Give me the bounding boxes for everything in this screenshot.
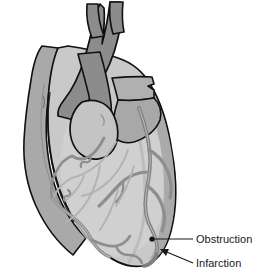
obstruction-label: Obstruction [196, 233, 252, 245]
heart-diagram-figure: Obstruction Infarction [0, 0, 256, 275]
infarction-label: Infarction [196, 257, 241, 269]
superior-vena-cava [112, 77, 154, 101]
heart-illustration: Obstruction Infarction [0, 0, 256, 275]
aortic-arch-branch-right [110, 2, 124, 34]
